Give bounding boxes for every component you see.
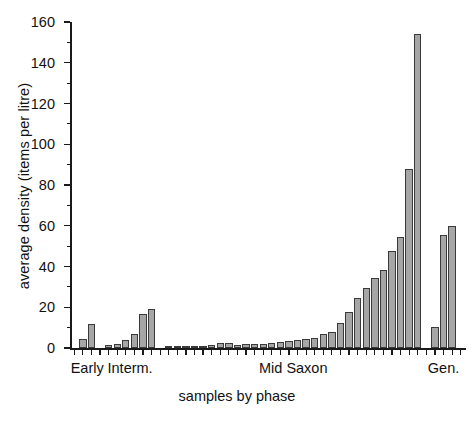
bar: [165, 346, 172, 348]
y-axis-tick-label: 20: [39, 299, 55, 315]
y-axis-tick: [64, 144, 70, 145]
y-axis-tick: [64, 184, 70, 185]
bar: [131, 334, 138, 348]
bar: [225, 343, 232, 349]
y-axis-tick: [64, 347, 70, 348]
bar: [242, 344, 249, 348]
phase-label-interm: Interm.: [108, 360, 153, 376]
bar: [354, 298, 361, 348]
y-axis-title: average density (items per litre): [16, 21, 32, 351]
bar-chart-figure: average density (items per litre) 020406…: [0, 0, 474, 422]
phase-label-early: Early: [71, 360, 104, 376]
bar: [328, 332, 335, 348]
x-axis-tick: [202, 349, 203, 355]
x-axis-tick: [245, 349, 246, 355]
x-axis-tick: [400, 349, 401, 355]
y-axis-tick-label: 140: [31, 55, 55, 71]
x-axis-tick: [452, 349, 453, 355]
x-axis-tick: [280, 349, 281, 355]
bar: [371, 278, 378, 348]
x-axis-tick: [306, 349, 307, 355]
bar: [431, 327, 438, 348]
y-axis-minor-tick: [67, 205, 71, 206]
bar: [234, 345, 241, 348]
bar: [363, 288, 370, 348]
x-axis-tick: [460, 349, 461, 355]
x-axis-tick: [323, 349, 324, 355]
y-axis-tick: [64, 103, 70, 104]
x-axis-tick: [142, 349, 143, 355]
y-axis-minor-tick: [67, 42, 71, 43]
bar: [251, 344, 258, 348]
x-axis-tick: [314, 349, 315, 355]
y-axis-tick: [64, 266, 70, 267]
x-axis-tick: [228, 349, 229, 355]
y-axis-tick-label: 80: [39, 177, 55, 193]
x-axis-tick: [426, 349, 427, 355]
bar: [268, 343, 275, 348]
y-axis-minor-tick: [67, 123, 71, 124]
bar: [405, 169, 412, 348]
x-axis-line: [70, 348, 466, 350]
x-axis-tick: [108, 349, 109, 355]
bar: [79, 339, 86, 348]
x-axis-tick: [99, 349, 100, 355]
x-axis-tick: [348, 349, 349, 355]
bar: [105, 345, 112, 348]
bar: [260, 344, 267, 348]
bar: [191, 346, 198, 348]
phase-label-gen: Gen.: [428, 360, 459, 376]
plot-area: 020406080100120140160: [70, 22, 465, 348]
bar: [337, 323, 344, 348]
x-axis-tick: [185, 349, 186, 355]
x-axis-tick: [374, 349, 375, 355]
bar: [440, 235, 447, 348]
bar: [182, 346, 189, 348]
y-axis-tick-label: 160: [31, 14, 55, 30]
bar: [285, 341, 292, 348]
bar: [302, 339, 309, 348]
x-axis-tick: [297, 349, 298, 355]
y-axis-tick-label: 0: [47, 340, 55, 356]
y-axis-tick: [64, 225, 70, 226]
bar: [311, 338, 318, 348]
y-axis-tick: [64, 62, 70, 63]
y-axis-tick-label: 40: [39, 259, 55, 275]
y-axis-tick: [64, 307, 70, 308]
y-axis-tick-label: 120: [31, 96, 55, 112]
bar: [414, 34, 421, 348]
x-axis-tick: [74, 349, 75, 355]
x-axis-tick: [125, 349, 126, 355]
x-axis-tick: [271, 349, 272, 355]
x-axis-tick: [443, 349, 444, 355]
bar: [388, 251, 395, 348]
x-axis-tick: [340, 349, 341, 355]
bar: [88, 324, 95, 348]
x-axis-tick: [168, 349, 169, 355]
x-axis-tick: [288, 349, 289, 355]
x-axis-tick: [254, 349, 255, 355]
bar: [320, 334, 327, 348]
x-axis-tick: [134, 349, 135, 355]
y-axis-tick-label: 100: [31, 136, 55, 152]
y-axis-minor-tick: [67, 286, 71, 287]
x-axis-tick: [366, 349, 367, 355]
x-axis-tick: [237, 349, 238, 355]
bar: [199, 346, 206, 348]
phase-label-mid-saxon: Mid Saxon: [259, 360, 328, 376]
bar: [148, 309, 155, 348]
bar: [277, 342, 284, 348]
bar: [114, 344, 121, 348]
bar: [294, 340, 301, 348]
y-axis-minor-tick: [67, 246, 71, 247]
bar: [139, 314, 146, 348]
x-axis-tick: [211, 349, 212, 355]
x-axis-tick: [91, 349, 92, 355]
x-axis-tick: [160, 349, 161, 355]
x-axis-tick: [151, 349, 152, 355]
bar: [448, 226, 455, 348]
x-axis-tick: [391, 349, 392, 355]
bar: [174, 346, 181, 348]
y-axis-minor-tick: [67, 83, 71, 84]
bar: [345, 312, 352, 348]
